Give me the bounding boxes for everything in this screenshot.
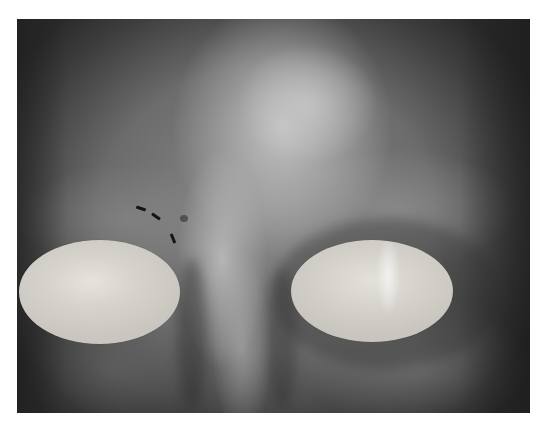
eye-cover-right	[291, 240, 453, 342]
shadow-right-edge	[460, 19, 530, 413]
dashed-marking-segment	[151, 212, 161, 220]
shadow-left-edge	[17, 19, 67, 413]
dashed-marking-segment	[136, 206, 146, 212]
shadow-nose-left	[177, 259, 207, 409]
eye-cover-left	[19, 240, 180, 344]
figure-canvas	[0, 0, 547, 428]
skin-lesion-spot	[180, 215, 188, 222]
dashed-marking-segment	[170, 233, 177, 243]
face-photograph	[17, 19, 530, 413]
